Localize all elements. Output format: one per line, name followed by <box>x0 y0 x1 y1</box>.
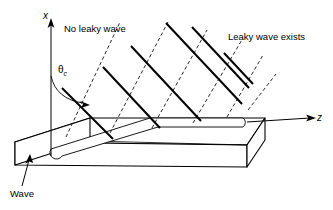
critical-angle-arc <box>51 76 83 103</box>
wave-label: Wave <box>10 189 34 199</box>
critical-angle-indicator <box>51 76 90 108</box>
solid-ray-3 <box>131 46 201 121</box>
critical-angle-label: θc <box>58 65 67 77</box>
x-axis-label: x <box>43 11 48 21</box>
leaky-wave-diagram: x z θc No leaky wave Leaky wave exists W… <box>0 0 333 210</box>
slab-waveguide <box>15 118 265 167</box>
z-axis-label: z <box>317 113 322 123</box>
theta-subscript: c <box>64 70 68 77</box>
no-leaky-wave-label: No leaky wave <box>64 24 126 34</box>
dashed-ray-5 <box>227 55 263 117</box>
solid-ray-6 <box>224 53 253 84</box>
leaky-wave-exists-label: Leaky wave exists <box>228 32 305 42</box>
dashed-ray-6 <box>248 74 276 110</box>
dashed-ray-4 <box>193 38 243 123</box>
dashed-ray-3 <box>152 30 207 128</box>
